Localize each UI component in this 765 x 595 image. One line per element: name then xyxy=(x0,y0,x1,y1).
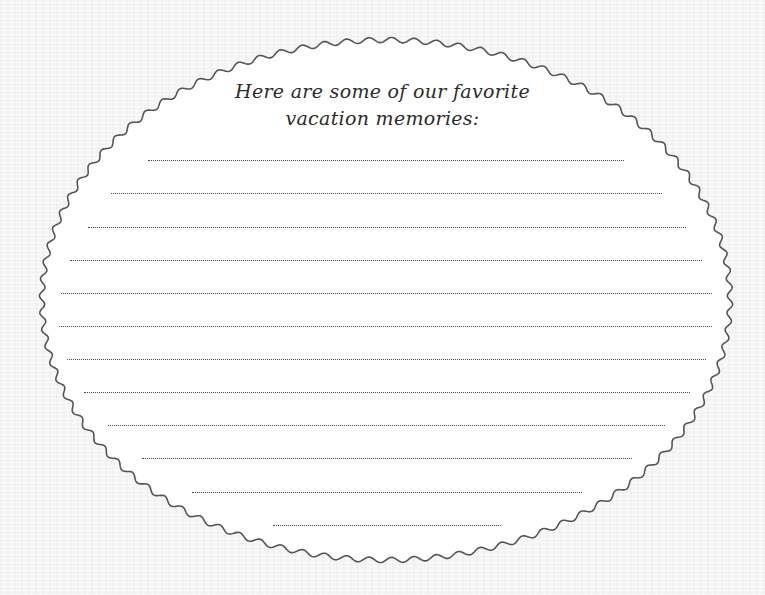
writing-line-9 xyxy=(108,425,665,426)
writing-line-4 xyxy=(70,260,702,261)
writing-line-5 xyxy=(61,293,712,294)
writing-line-12 xyxy=(273,525,501,526)
prompt-line-2: vacation memories: xyxy=(0,105,765,132)
prompt-line-1: Here are some of our favorite xyxy=(0,78,765,105)
writing-line-11 xyxy=(192,492,582,493)
writing-line-2 xyxy=(111,193,662,194)
prompt-heading: Here are some of our favorite vacation m… xyxy=(0,78,765,132)
writing-line-1 xyxy=(148,160,624,161)
writing-line-7 xyxy=(67,359,706,360)
writing-line-3 xyxy=(88,227,686,228)
writing-line-8 xyxy=(84,392,690,393)
writing-line-6 xyxy=(59,326,712,327)
writing-line-10 xyxy=(142,458,632,459)
